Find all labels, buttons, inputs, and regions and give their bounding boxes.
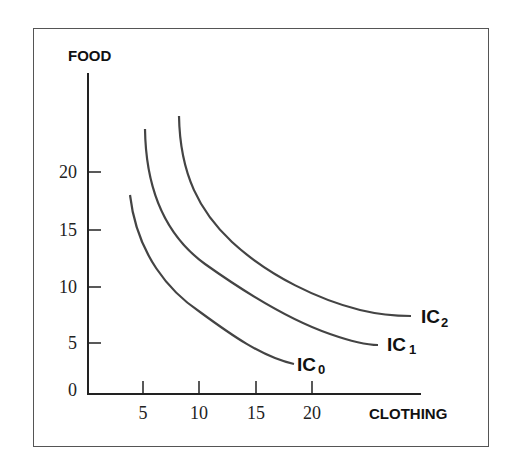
x-tick-10: 10: [190, 403, 208, 423]
y-axis-title: FOOD: [68, 47, 111, 64]
indifference-curve-chart: 20 15 10 5 0 5 10 15 20 FOOD CLOTHING IC…: [0, 0, 512, 469]
x-axis-title: CLOTHING: [369, 405, 447, 422]
curve-ic1: [145, 129, 378, 345]
y-tick-10: 10: [59, 277, 77, 297]
y-tick-5: 5: [68, 333, 77, 353]
x-tick-20: 20: [303, 403, 321, 423]
y-tick-20: 20: [59, 162, 77, 182]
x-tick-15: 15: [247, 403, 265, 423]
label-ic1: IC1: [387, 334, 416, 357]
curve-ic2: [179, 116, 411, 316]
y-tick-0: 0: [68, 380, 77, 400]
y-tick-15: 15: [59, 220, 77, 240]
label-ic2: IC2: [421, 306, 448, 330]
y-ticks: [88, 172, 101, 343]
x-tick-5: 5: [139, 403, 148, 423]
x-ticks: [143, 381, 312, 394]
label-ic0: IC0: [297, 354, 325, 377]
